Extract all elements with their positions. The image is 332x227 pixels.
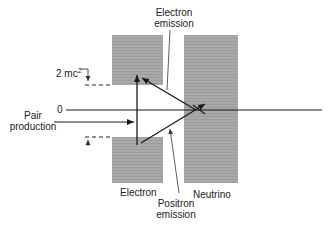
pair-production-line1: Pair bbox=[8, 110, 58, 121]
positron-emission-leader bbox=[170, 129, 179, 193]
electron-text: Electron bbox=[120, 187, 157, 198]
neutrino-label: Neutrino bbox=[193, 189, 231, 200]
upper-bracket bbox=[81, 69, 88, 81]
neutrino-text: Neutrino bbox=[193, 189, 231, 200]
two-mc2-superscript: 2 bbox=[78, 67, 82, 74]
electron-emission-line1: Electron bbox=[152, 7, 196, 18]
electron-emission-label: Electron emission bbox=[152, 7, 196, 29]
two-mc2-text: 2 mc bbox=[56, 68, 78, 79]
pair-production-label: Pair production bbox=[8, 110, 58, 132]
pair-production-line2: production bbox=[8, 121, 58, 132]
electron-label: Electron bbox=[120, 187, 157, 198]
electron-emission-leader bbox=[167, 30, 170, 90]
electron-emission-line2: emission bbox=[152, 18, 196, 29]
two-mc2-label: 2 mc2 bbox=[56, 65, 82, 79]
neutrino-band bbox=[184, 35, 238, 183]
positron-emission-line2: emission bbox=[154, 209, 198, 220]
positron-emission-label: Positron emission bbox=[154, 198, 198, 220]
positron-emission-line1: Positron bbox=[154, 198, 198, 209]
